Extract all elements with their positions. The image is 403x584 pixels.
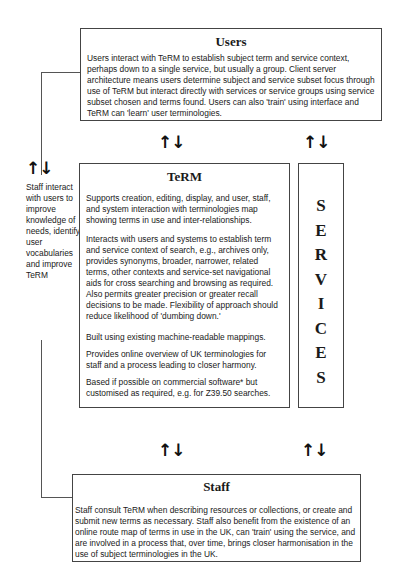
services-letter: S: [299, 194, 343, 219]
term-box: TeRM Supports creation, editing, display…: [79, 163, 290, 408]
users-title: Users: [87, 34, 375, 50]
arrow-down-icon: ↓: [171, 132, 184, 152]
services-label: S E R V I C E S: [299, 194, 343, 390]
staff-box: Staff Staff consult TeRM when describing…: [72, 474, 361, 562]
services-letter: E: [299, 219, 343, 244]
services-letter: I: [299, 292, 343, 317]
connector-staff-horizontal: [41, 497, 72, 498]
arrow-down-icon: ↓: [39, 158, 52, 178]
bidirectional-arrows-users-term: ↑↓: [158, 134, 185, 151]
services-letter: V: [299, 268, 343, 293]
staff-title: Staff: [75, 479, 358, 495]
arrow-down-icon: ↓: [314, 440, 327, 460]
staff-users-note: Staff interact with users to improve kno…: [26, 182, 82, 281]
users-description: Users interact with TeRM to establish su…: [87, 53, 375, 119]
arrow-down-icon: ↓: [316, 132, 329, 152]
bidirectional-arrows-users-services: ↑↓: [303, 134, 330, 151]
services-letter: C: [299, 317, 343, 342]
arrow-up-icon: ↑: [158, 440, 171, 460]
term-paragraph: Supports creation, editing, display, and…: [86, 193, 283, 226]
arrow-up-icon: ↑: [301, 440, 314, 460]
term-paragraph: Interacts with users and systems to esta…: [86, 234, 283, 322]
term-title: TeRM: [86, 169, 283, 185]
users-box: Users Users interact with TeRM to establ…: [80, 28, 382, 121]
term-paragraph: Based if possible on commercial software…: [86, 377, 283, 399]
term-paragraph: Built using existing machine-readable ma…: [86, 332, 283, 343]
bidirectional-arrows-term-staff: ↑↓: [158, 442, 185, 459]
services-letter: S: [299, 366, 343, 391]
bidirectional-arrows-left: ↑↓: [26, 160, 53, 177]
arrow-up-icon: ↑: [26, 158, 39, 178]
services-letter: E: [299, 341, 343, 366]
connector-staff-vertical: [41, 340, 42, 497]
services-box: S E R V I C E S: [298, 163, 344, 408]
staff-description: Staff consult TeRM when describing resou…: [75, 505, 358, 560]
term-paragraph: Provides online overview of UK terminolo…: [86, 349, 283, 371]
arrow-up-icon: ↑: [158, 132, 171, 152]
bidirectional-arrows-services-staff: ↑↓: [301, 442, 328, 459]
arrow-up-icon: ↑: [303, 132, 316, 152]
services-letter: R: [299, 243, 343, 268]
arrow-down-icon: ↓: [171, 440, 184, 460]
connector-users-horizontal: [41, 72, 80, 73]
